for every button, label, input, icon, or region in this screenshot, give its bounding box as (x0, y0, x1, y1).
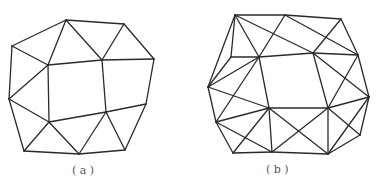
mesh-edge (102, 60, 106, 112)
mesh-edge (259, 53, 313, 57)
figure-a-mesh (9, 20, 154, 154)
mesh-edge (208, 87, 269, 108)
figure-b-refined-mesh (208, 15, 369, 154)
mesh-edge (106, 112, 125, 150)
mesh-edge (285, 15, 358, 55)
mesh-edge (102, 24, 124, 60)
mesh-edge (12, 20, 66, 46)
mesh-edge (208, 57, 259, 87)
mesh-edge (313, 53, 328, 108)
mesh-edge (124, 24, 154, 59)
mesh-edge (313, 19, 341, 53)
mesh-edge (66, 20, 102, 60)
mesh-edge (285, 15, 341, 19)
mesh-edge (313, 53, 358, 55)
mesh-edge (24, 122, 49, 151)
mesh-edge (106, 104, 146, 112)
mesh-edge (233, 108, 269, 153)
mesh-edge (48, 65, 49, 122)
mesh-edge (102, 59, 154, 60)
mesh-edge (269, 108, 272, 152)
mesh-edge (208, 57, 231, 87)
mesh-edge (313, 53, 369, 97)
mesh-edge (328, 55, 358, 108)
mesh-edge (358, 55, 369, 97)
mesh-edge (259, 15, 285, 57)
mesh-edge (49, 112, 106, 122)
mesh-edge (146, 59, 154, 104)
mesh-edge (272, 108, 328, 152)
mesh-edge (9, 65, 48, 99)
mesh-edge (12, 46, 48, 65)
mesh-edge (125, 104, 146, 150)
mesh-edge (208, 87, 216, 122)
mesh-edge (233, 152, 272, 153)
mesh-edge (24, 151, 79, 154)
mesh-edge (9, 46, 12, 99)
mesh-edge (48, 60, 102, 65)
mesh-edge (49, 122, 79, 154)
mesh-edge (79, 112, 106, 154)
figure-a-caption: ( a ) (72, 164, 94, 177)
mesh-diagram (0, 0, 379, 189)
mesh-edge (272, 152, 328, 154)
mesh-edge (66, 20, 124, 24)
figure-b-caption: ( b ) (266, 163, 289, 176)
mesh-edge (341, 19, 358, 55)
mesh-edge (79, 150, 125, 154)
mesh-edge (259, 57, 269, 108)
mesh-edge (328, 135, 360, 154)
